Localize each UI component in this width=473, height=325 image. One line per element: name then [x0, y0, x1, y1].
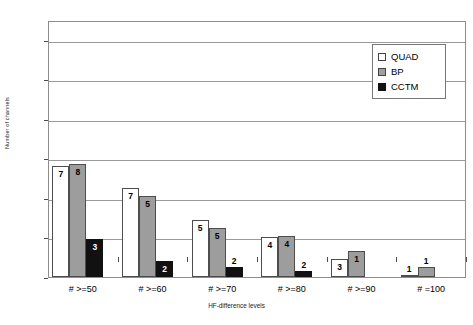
x-tick-label: # >=90 — [327, 284, 397, 294]
bar-value-label: 4 — [279, 240, 294, 249]
bar-value-label: 7 — [53, 170, 68, 179]
bar-bp[interactable]: 5 — [139, 196, 156, 277]
bar-value-label: 2 — [227, 257, 242, 266]
bar-group: 752 — [122, 20, 173, 277]
bar-quad[interactable]: 7 — [52, 166, 69, 277]
bar-bp[interactable]: 4 — [278, 236, 295, 278]
legend-swatch-icon — [378, 68, 386, 76]
x-tick-label: # =100 — [396, 284, 466, 294]
bar-value-label: 1 — [349, 255, 364, 264]
x-tick-mark — [118, 257, 119, 262]
x-tick-label: # >=80 — [257, 284, 327, 294]
bar-value-label: 7 — [123, 192, 138, 201]
x-axis-title: HF-difference levels — [0, 302, 473, 309]
bar-value-label: 5 — [193, 224, 208, 233]
bar-value-label: 5 — [210, 232, 225, 241]
y-tick-mark — [44, 278, 48, 279]
legend-label: CCTM — [391, 82, 418, 92]
legend-item-quad[interactable]: QUAD — [378, 49, 440, 64]
bar-value-label: 2 — [157, 265, 172, 274]
bar-bp[interactable]: 1 — [348, 251, 365, 277]
x-tick-mark — [466, 257, 467, 262]
bar-chart: Number of channels 020406080100120 78375… — [0, 0, 473, 325]
bar-cctm[interactable]: 2 — [295, 271, 312, 277]
bar-group: 783 — [52, 20, 103, 277]
x-tick-mark — [327, 257, 328, 262]
bar-quad[interactable]: 1 — [401, 275, 418, 277]
bar-quad[interactable]: 7 — [122, 188, 139, 277]
bar-value-label: 3 — [87, 243, 102, 252]
legend-swatch-icon — [378, 83, 386, 91]
legend-label: QUAD — [391, 52, 418, 62]
legend-label: BP — [391, 67, 404, 77]
bar-group: 442 — [261, 20, 312, 277]
bar-cctm[interactable]: 2 — [156, 261, 173, 277]
legend: QUADBPCCTM — [372, 44, 446, 99]
y-axis-title: Number of channels — [4, 63, 10, 183]
bar-value-label: 4 — [262, 241, 277, 250]
x-tick-mark — [257, 257, 258, 262]
bar-value-label: 2 — [296, 261, 311, 270]
bar-bp[interactable]: 1 — [418, 267, 435, 277]
legend-item-bp[interactable]: BP — [378, 64, 440, 79]
bar-value-label: 3 — [332, 263, 347, 272]
bar-cctm[interactable]: 3 — [86, 239, 103, 277]
x-tick-label: # >=50 — [48, 284, 118, 294]
bar-quad[interactable]: 4 — [261, 237, 278, 277]
bar-group: 552 — [192, 20, 243, 277]
legend-swatch-icon — [378, 53, 386, 61]
legend-item-cctm[interactable]: CCTM — [378, 79, 440, 94]
x-tick-label: # >=70 — [187, 284, 257, 294]
bar-value-label: 1 — [402, 265, 417, 274]
bar-cctm[interactable]: 2 — [226, 267, 243, 277]
x-tick-label: # >=60 — [118, 284, 188, 294]
bar-value-label: 5 — [140, 200, 155, 209]
bar-quad[interactable]: 3 — [331, 259, 348, 277]
bar-value-label: 8 — [70, 168, 85, 177]
bar-value-label: 1 — [419, 257, 434, 266]
bar-quad[interactable]: 5 — [192, 220, 209, 277]
x-tick-mark — [187, 257, 188, 262]
x-tick-mark — [396, 257, 397, 262]
bar-bp[interactable]: 5 — [209, 228, 226, 277]
bar-bp[interactable]: 8 — [69, 164, 86, 277]
